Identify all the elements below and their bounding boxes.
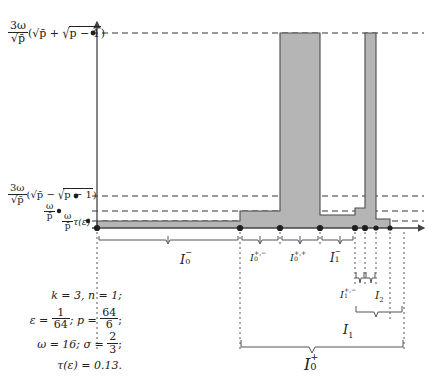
drop-lines	[97, 232, 404, 352]
y-label-lowest: ω p̄ τ(ε)	[62, 212, 90, 232]
node-point	[373, 225, 378, 230]
parameter-line-k-n: k = 3, n = 1;	[14, 286, 122, 307]
y-label-mid-coef-num: 3ω	[8, 183, 27, 194]
y-label-mid-coefficient: 3ω √p̄	[8, 183, 27, 205]
brace-I1-plus-minus	[356, 272, 364, 283]
y-label-low-fraction: ω p̄	[44, 202, 55, 222]
epsilon-fraction: 1 64	[52, 307, 70, 331]
node-point	[237, 225, 243, 231]
p-fraction: 64 6	[100, 307, 118, 331]
y-label-top: 3ω √p̄ (√p̄ + √p − 1)	[8, 20, 105, 44]
node-point	[352, 225, 358, 231]
y-label-mid-expression: (√p̄ − √p − 1)	[27, 189, 97, 200]
interval-label-I1-minus: I−1	[330, 251, 341, 268]
parameter-line-omega-sigma: ω = 16; σ = 2 3 ;	[14, 331, 122, 356]
interval-label-I1-plus-minus: I+,−1	[340, 289, 356, 303]
interval-label-I0-minus: I−0	[180, 252, 192, 270]
interval-label-I0-plus: I+0	[304, 355, 319, 378]
interval-label-I0-plus-minus: I+,−0	[250, 252, 266, 266]
sqrt-group: √p − 1	[58, 188, 93, 200]
step-area-fill	[97, 33, 390, 228]
sqrt-group: √p − 1	[63, 26, 101, 40]
step-area-outline	[97, 33, 390, 228]
interval-label-I0-plus-plus: I+,+0	[290, 252, 306, 266]
node-point	[317, 225, 323, 231]
brace-I1	[356, 306, 402, 317]
brace-I2	[366, 272, 375, 283]
y-label-top-coef-den: √p̄	[8, 32, 28, 45]
node-point	[94, 225, 100, 231]
y-label-mid-coef-den: √p̄	[8, 194, 27, 206]
y-label-top-coefficient: 3ω √p̄	[8, 20, 28, 44]
y-label-top-coef-num: 3ω	[8, 20, 28, 32]
brace-I1-minus	[322, 236, 353, 244]
y-label-top-expression: (√p̄ + √p − 1)	[28, 27, 105, 40]
figure-canvas: 3ω √p̄ (√p̄ + √p − 1) 3ω √p̄ (√p̄ − √p −…	[0, 0, 434, 388]
level-dot-low	[57, 209, 61, 213]
y-label-lowest-fraction: ω p̄	[62, 212, 73, 232]
y-label-lowest-suffix: τ(ε)	[73, 217, 90, 227]
interval-label-I1: I1	[343, 322, 353, 340]
step-function-region	[97, 33, 390, 228]
brace-I0-plus	[241, 340, 403, 353]
parameter-line-epsilon-p: ε = 1 64 ; p = 64 6 ;	[14, 307, 122, 332]
sigma-fraction: 2 3	[107, 331, 118, 355]
node-point	[362, 225, 368, 231]
y-label-low: ω p̄	[44, 202, 55, 222]
parameter-block: k = 3, n = 1; ε = 1 64 ; p = 64 6 ; ω = …	[14, 286, 122, 377]
node-point	[277, 225, 283, 231]
node-point	[387, 225, 392, 230]
parameter-line-tau: τ(ε) = 0.13.	[14, 356, 122, 377]
interval-label-I2: I2	[375, 289, 384, 304]
